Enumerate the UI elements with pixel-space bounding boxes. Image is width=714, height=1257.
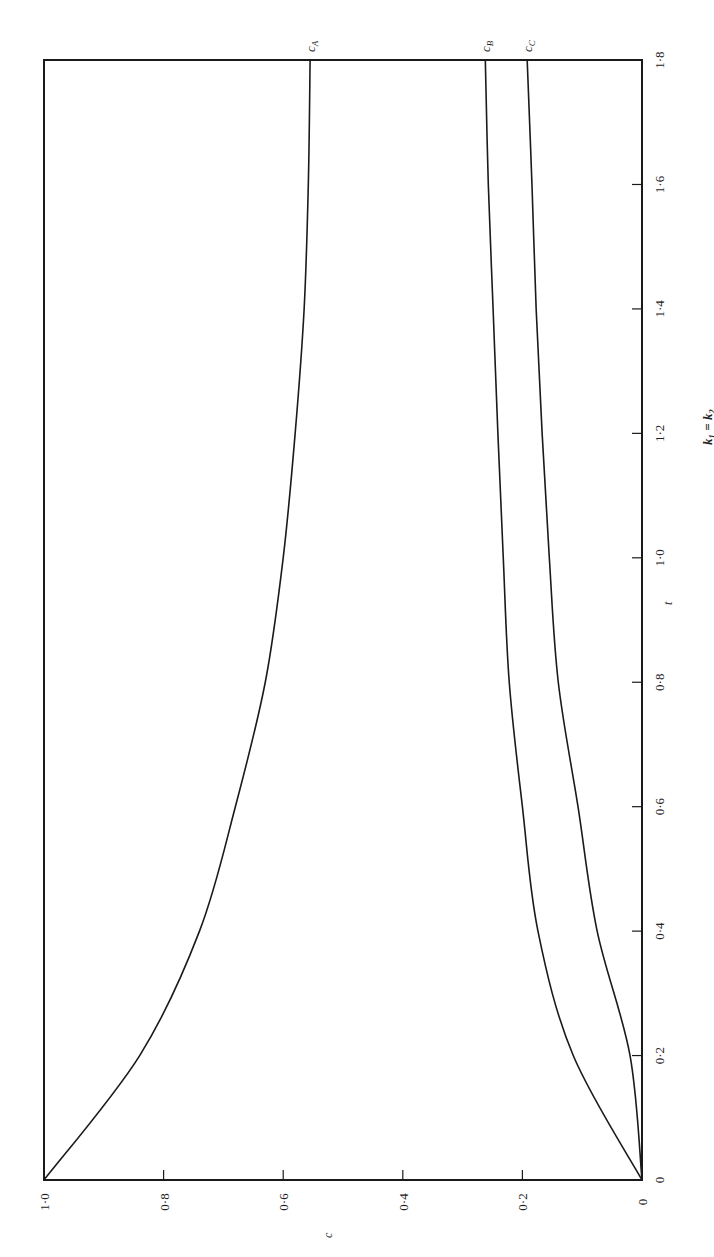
t-axis-title: t: [661, 601, 675, 605]
curves: [44, 60, 642, 1180]
curve-cA: [44, 60, 310, 1180]
c-axis-ticks: 00·20·40·60·81·0: [37, 1170, 650, 1211]
t-axis-ticks: 00·20·40·60·81·01·21·41·61·8: [632, 51, 667, 1183]
t-tick-label: 1·2: [652, 425, 667, 442]
t-tick-label: 0·2: [652, 1047, 667, 1064]
c-tick-label: 0·2: [515, 1193, 530, 1210]
figure-caption: k₁ = k₂: [700, 409, 714, 445]
c-tick-label: 0·6: [276, 1193, 291, 1211]
t-tick-label: 1·6: [652, 175, 667, 193]
series-label-cC: cC: [520, 39, 537, 52]
t-tick-label: 0: [652, 1177, 667, 1184]
curve-cC: [527, 60, 642, 1180]
t-tick-label: 0·6: [652, 798, 667, 816]
t-tick-label: 1·0: [652, 549, 667, 566]
c-tick-label: 0: [635, 1199, 650, 1206]
series-labels: cAcBcC: [303, 39, 537, 52]
t-tick-label: 1·4: [652, 300, 667, 318]
series-label-cB: cB: [478, 40, 495, 52]
c-tick-label: 0·4: [396, 1193, 411, 1211]
t-tick-label: 1·8: [652, 51, 667, 68]
c-tick-label: 1·0: [37, 1193, 52, 1210]
curve-cB: [485, 60, 642, 1180]
c-axis-title: c: [321, 1232, 335, 1238]
t-tick-label: 0·8: [652, 674, 667, 691]
t-tick-label: 0·4: [652, 922, 667, 940]
c-tick-label: 0·8: [157, 1193, 172, 1210]
series-label-cA: cA: [303, 40, 320, 52]
rotated-line-chart: 00·20·40·60·81·01·21·41·61·8 00·20·40·60…: [0, 0, 714, 1257]
